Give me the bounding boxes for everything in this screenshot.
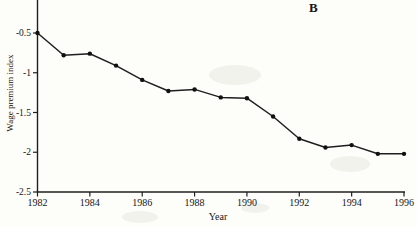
y-tick-label: -1.5	[16, 108, 31, 118]
data-point	[35, 31, 39, 35]
data-point	[192, 87, 196, 91]
data-point	[402, 152, 406, 156]
wage-premium-line-chart: -0.5-1-1.5-2-2.5198219841986198819901992…	[0, 0, 417, 226]
data-point	[114, 63, 118, 67]
x-axis-title: Year	[209, 211, 227, 222]
scan-smudge	[122, 211, 158, 223]
x-tick-label: 1982	[28, 197, 48, 208]
data-point	[245, 96, 249, 100]
data-point	[219, 95, 223, 99]
panel-label: B	[309, 0, 318, 16]
data-point	[88, 51, 92, 55]
x-tick-label: 1990	[237, 197, 257, 208]
y-axis-title: Wage premium index	[5, 54, 15, 131]
data-point	[349, 143, 353, 147]
x-tick-label: 1994	[342, 197, 362, 208]
y-tick-label: -0.5	[16, 28, 31, 38]
data-point	[61, 53, 65, 57]
data-line	[38, 33, 405, 154]
data-point	[166, 89, 170, 93]
scan-smudge	[209, 65, 261, 85]
x-tick-label: 1988	[185, 197, 205, 208]
x-tick-label: 1992	[289, 197, 309, 208]
x-tick-label: 1984	[80, 197, 100, 208]
y-tick-label: -2	[23, 147, 31, 157]
figure-panel-b: -0.5-1-1.5-2-2.5198219841986198819901992…	[0, 0, 417, 226]
y-tick-label: -1	[23, 68, 31, 78]
data-point	[140, 78, 144, 82]
x-tick-label: 1986	[132, 197, 152, 208]
data-point	[297, 137, 301, 141]
data-point	[271, 114, 275, 118]
scan-smudge	[330, 156, 370, 172]
data-point	[376, 152, 380, 156]
data-point	[323, 145, 327, 149]
y-tick-label: -2.5	[16, 187, 31, 197]
x-tick-label: 1996	[394, 197, 414, 208]
